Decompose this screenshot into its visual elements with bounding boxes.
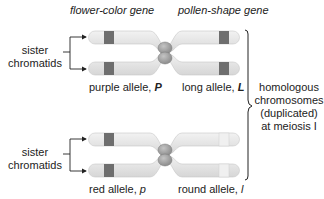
homologous-chromosomes-label: homologous chromosomes (duplicated) at m…	[254, 81, 324, 133]
sister-word: sister	[5, 44, 65, 57]
allele-symbol: p	[140, 183, 146, 195]
sister-chromatids-label-top: sister chromatids	[5, 44, 65, 70]
allele-text: red allele,	[89, 183, 140, 195]
label-line: chromosomes	[254, 94, 324, 107]
bottom-chromosome	[89, 133, 240, 177]
allele-label-purple: purple allele, P	[89, 81, 162, 94]
allele-band-p-upper	[104, 133, 114, 146]
sister-word: sister	[5, 146, 65, 159]
homologous-brace	[245, 30, 252, 180]
sister-bracket-top	[63, 37, 86, 69]
allele-label-red: red allele, p	[89, 183, 146, 196]
allele-band-l-lower	[219, 164, 229, 177]
sister-bracket-bottom	[63, 139, 86, 171]
allele-symbol: P	[154, 81, 161, 93]
allele-band-P-upper	[104, 31, 114, 44]
allele-symbol: l	[241, 183, 243, 195]
label-line: homologous	[254, 81, 324, 94]
label-line: at meiosis I	[254, 120, 324, 133]
allele-band-l-upper	[219, 133, 229, 146]
gene-label-flower-color: flower-color gene	[70, 4, 154, 17]
gene-label-pollen-shape: pollen-shape gene	[178, 4, 269, 17]
allele-symbol: L	[238, 81, 245, 93]
sister-chromatids-label-bottom: sister chromatids	[5, 146, 65, 172]
chromatids-word: chromatids	[5, 57, 65, 70]
allele-text: purple allele,	[89, 81, 154, 93]
allele-band-P-lower	[104, 62, 114, 75]
allele-text: long allele,	[182, 81, 238, 93]
allele-band-L-upper	[219, 31, 229, 44]
allele-label-long: long allele, L	[182, 81, 244, 94]
allele-band-p-lower	[104, 164, 114, 177]
allele-text: round allele,	[178, 183, 241, 195]
allele-label-round: round allele, l	[178, 183, 243, 196]
centromere-bottom-lower	[158, 154, 172, 166]
centromere-top-lower	[158, 52, 172, 64]
top-chromosome	[89, 31, 240, 75]
allele-band-L-lower	[219, 62, 229, 75]
chromatids-word: chromatids	[5, 159, 65, 172]
label-line: (duplicated)	[254, 107, 324, 120]
